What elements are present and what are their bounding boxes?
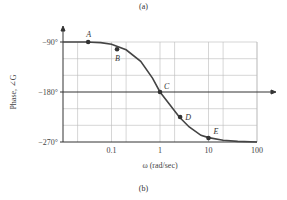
point-d-label: D <box>184 113 191 122</box>
y-tick-label: −180° <box>38 88 58 97</box>
point-d-marker <box>178 115 183 120</box>
y-tick-labels: −90°−180°−270° <box>38 38 63 147</box>
y-tick-label: −270° <box>38 138 58 147</box>
x-axis-arrow-icon <box>271 90 276 94</box>
phase-plot: −90°−180°−270° 0.1110100 ABCDE Phase, ∠G… <box>0 0 287 200</box>
figure-caption-b: (b) <box>0 184 287 193</box>
point-e-label: E <box>213 127 219 136</box>
x-tick-label: 10 <box>205 146 213 155</box>
point-b-marker <box>115 47 120 52</box>
point-b-label: B <box>115 54 120 63</box>
x-tick-label: 0.1 <box>107 146 117 155</box>
y-axis-label: Phase, ∠G <box>9 74 18 109</box>
y-tick-label: −90° <box>42 38 58 47</box>
point-e-marker <box>206 136 211 141</box>
point-c-label: C <box>164 82 170 91</box>
point-a-marker <box>86 40 91 45</box>
x-tick-labels: 0.1110100 <box>107 146 264 155</box>
point-a-label: A <box>85 30 91 39</box>
y-axis-arrow-icon <box>61 26 65 31</box>
x-axis-label: ω (rad/sec) <box>142 161 178 170</box>
point-c-marker <box>158 90 163 95</box>
x-tick-label: 1 <box>158 146 162 155</box>
annotated-points: ABCDE <box>85 30 218 140</box>
x-tick-label: 100 <box>251 146 263 155</box>
